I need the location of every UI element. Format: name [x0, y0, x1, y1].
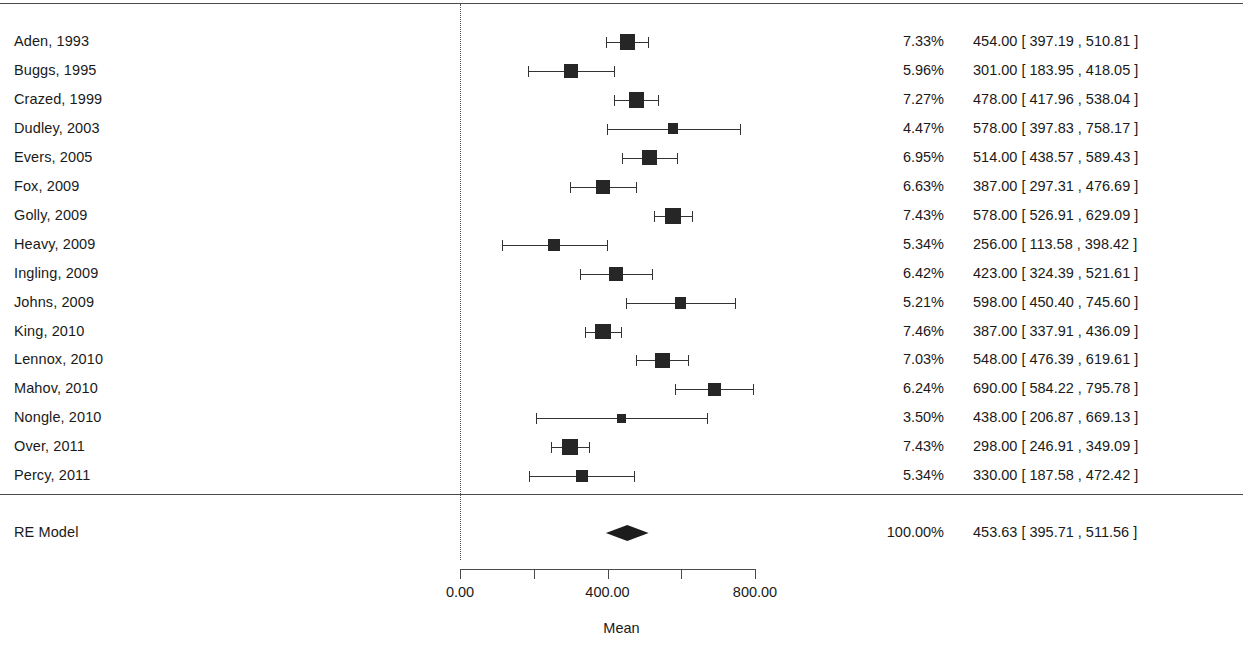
study-estimate-ci: 423.00 [ 324.39 , 521.61 ]: [973, 265, 1138, 281]
study-label: Nongle, 2010: [14, 409, 101, 425]
study-estimate-ci: 438.00 [ 206.87 , 669.13 ]: [973, 409, 1138, 425]
study-label: King, 2010: [14, 323, 84, 339]
ci-cap-lower: [528, 66, 529, 77]
study-row: Johns, 20095.21%598.00 [ 450.40 , 745.60…: [0, 294, 1243, 314]
study-label: Mahov, 2010: [14, 380, 98, 396]
ci-cap-upper: [589, 442, 590, 453]
summary-diamond: [606, 525, 649, 541]
x-axis-tick-label: 400.00: [548, 584, 668, 600]
study-row: Heavy, 20095.34%256.00 [ 113.58 , 398.42…: [0, 236, 1243, 256]
study-label: Aden, 1993: [14, 33, 89, 49]
study-row: Evers, 20056.95%514.00 [ 438.57 , 589.43…: [0, 149, 1243, 169]
ci-cap-lower: [622, 153, 623, 164]
ci-cap-upper: [707, 413, 708, 424]
ci-cap-upper: [636, 182, 637, 193]
study-weight: 7.43%: [824, 438, 944, 454]
study-weight: 6.95%: [824, 149, 944, 165]
x-axis-tick: [681, 569, 682, 579]
ci-cap-upper: [634, 471, 635, 482]
effect-marker: [665, 208, 681, 224]
study-row: Buggs, 19955.96%301.00 [ 183.95 , 418.05…: [0, 62, 1243, 82]
study-row: Dudley, 20034.47%578.00 [ 397.83 , 758.1…: [0, 120, 1243, 140]
ci-cap-lower: [614, 95, 615, 106]
summary-estimate-ci: 453.63 [ 395.71 , 511.56 ]: [973, 524, 1137, 540]
study-row: Fox, 20096.63%387.00 [ 297.31 , 476.69 ]: [0, 178, 1243, 198]
study-row: Percy, 20115.34%330.00 [ 187.58 , 472.42…: [0, 467, 1243, 487]
ci-cap-lower: [626, 298, 627, 309]
study-weight: 7.43%: [824, 207, 944, 223]
study-weight: 6.42%: [824, 265, 944, 281]
ci-cap-upper: [652, 269, 653, 280]
forest-plot: Aden, 19937.33%454.00 [ 397.19 , 510.81 …: [0, 0, 1243, 657]
study-weight: 5.34%: [824, 236, 944, 252]
ci-cap-lower: [607, 124, 608, 135]
study-weight: 7.33%: [824, 33, 944, 49]
ci-cap-upper: [614, 66, 615, 77]
effect-marker: [708, 383, 722, 397]
study-estimate-ci: 387.00 [ 337.91 , 436.09 ]: [973, 323, 1138, 339]
effect-marker: [675, 297, 687, 309]
study-row: Aden, 19937.33%454.00 [ 397.19 , 510.81 …: [0, 33, 1243, 53]
study-estimate-ci: 454.00 [ 397.19 , 510.81 ]: [973, 33, 1138, 49]
summary-weight: 100.00%: [824, 524, 944, 540]
x-axis-tick: [755, 569, 756, 579]
ci-cap-upper: [692, 211, 693, 222]
study-row: Over, 20117.43%298.00 [ 246.91 , 349.09 …: [0, 438, 1243, 458]
study-weight: 7.46%: [824, 323, 944, 339]
ci-cap-upper: [621, 327, 622, 338]
ci-cap-upper: [607, 240, 608, 251]
study-label: Evers, 2005: [14, 149, 92, 165]
study-estimate-ci: 256.00 [ 113.58 , 398.42 ]: [973, 236, 1137, 252]
study-weight: 5.96%: [824, 62, 944, 78]
study-estimate-ci: 578.00 [ 397.83 , 758.17 ]: [973, 120, 1138, 136]
ci-cap-upper: [677, 153, 678, 164]
study-estimate-ci: 598.00 [ 450.40 , 745.60 ]: [973, 294, 1138, 310]
study-estimate-ci: 548.00 [ 476.39 , 619.61 ]: [973, 351, 1138, 367]
study-weight: 7.27%: [824, 91, 944, 107]
ci-cap-lower: [636, 355, 637, 366]
study-weight: 4.47%: [824, 120, 944, 136]
summary-separator-rule: [0, 494, 1243, 495]
study-row: King, 20107.46%387.00 [ 337.91 , 436.09 …: [0, 323, 1243, 343]
study-estimate-ci: 387.00 [ 297.31 , 476.69 ]: [973, 178, 1138, 194]
ci-cap-upper: [740, 124, 741, 135]
ci-cap-lower: [585, 327, 586, 338]
study-row: Ingling, 20096.42%423.00 [ 324.39 , 521.…: [0, 265, 1243, 285]
effect-marker: [668, 123, 679, 134]
study-label: Buggs, 1995: [14, 62, 97, 78]
effect-marker: [548, 239, 560, 251]
study-weight: 5.21%: [824, 294, 944, 310]
study-row: Crazed, 19997.27%478.00 [ 417.96 , 538.0…: [0, 91, 1243, 111]
study-estimate-ci: 301.00 [ 183.95 , 418.05 ]: [973, 62, 1138, 78]
effect-marker: [576, 470, 588, 482]
study-label: Percy, 2011: [14, 467, 90, 483]
ci-cap-upper: [658, 95, 659, 106]
ci-cap-upper: [648, 37, 649, 48]
study-estimate-ci: 478.00 [ 417.96 , 538.04 ]: [973, 91, 1138, 107]
x-axis-tick: [608, 569, 609, 579]
study-estimate-ci: 514.00 [ 438.57 , 589.43 ]: [973, 149, 1138, 165]
x-axis-tick: [534, 569, 535, 579]
ci-cap-lower: [529, 471, 530, 482]
study-weight: 6.24%: [824, 380, 944, 396]
study-label: Lennox, 2010: [14, 351, 103, 367]
ci-cap-upper: [688, 355, 689, 366]
x-axis-title: Mean: [0, 620, 1243, 636]
ci-cap-lower: [551, 442, 552, 453]
effect-marker: [609, 267, 623, 281]
ci-cap-lower: [606, 37, 607, 48]
effect-marker: [629, 92, 644, 107]
effect-marker: [642, 150, 657, 165]
study-estimate-ci: 578.00 [ 526.91 , 629.09 ]: [973, 207, 1138, 223]
ci-cap-lower: [502, 240, 503, 251]
study-label: Fox, 2009: [14, 178, 79, 194]
x-axis-tick-label: 0.00: [400, 584, 520, 600]
study-weight: 6.63%: [824, 178, 944, 194]
study-label: Dudley, 2003: [14, 120, 100, 136]
study-label: Golly, 2009: [14, 207, 87, 223]
top-rule: [0, 3, 1243, 4]
study-label: Johns, 2009: [14, 294, 94, 310]
study-estimate-ci: 330.00 [ 187.58 , 472.42 ]: [973, 467, 1138, 483]
summary-label: RE Model: [14, 524, 78, 540]
study-weight: 7.03%: [824, 351, 944, 367]
